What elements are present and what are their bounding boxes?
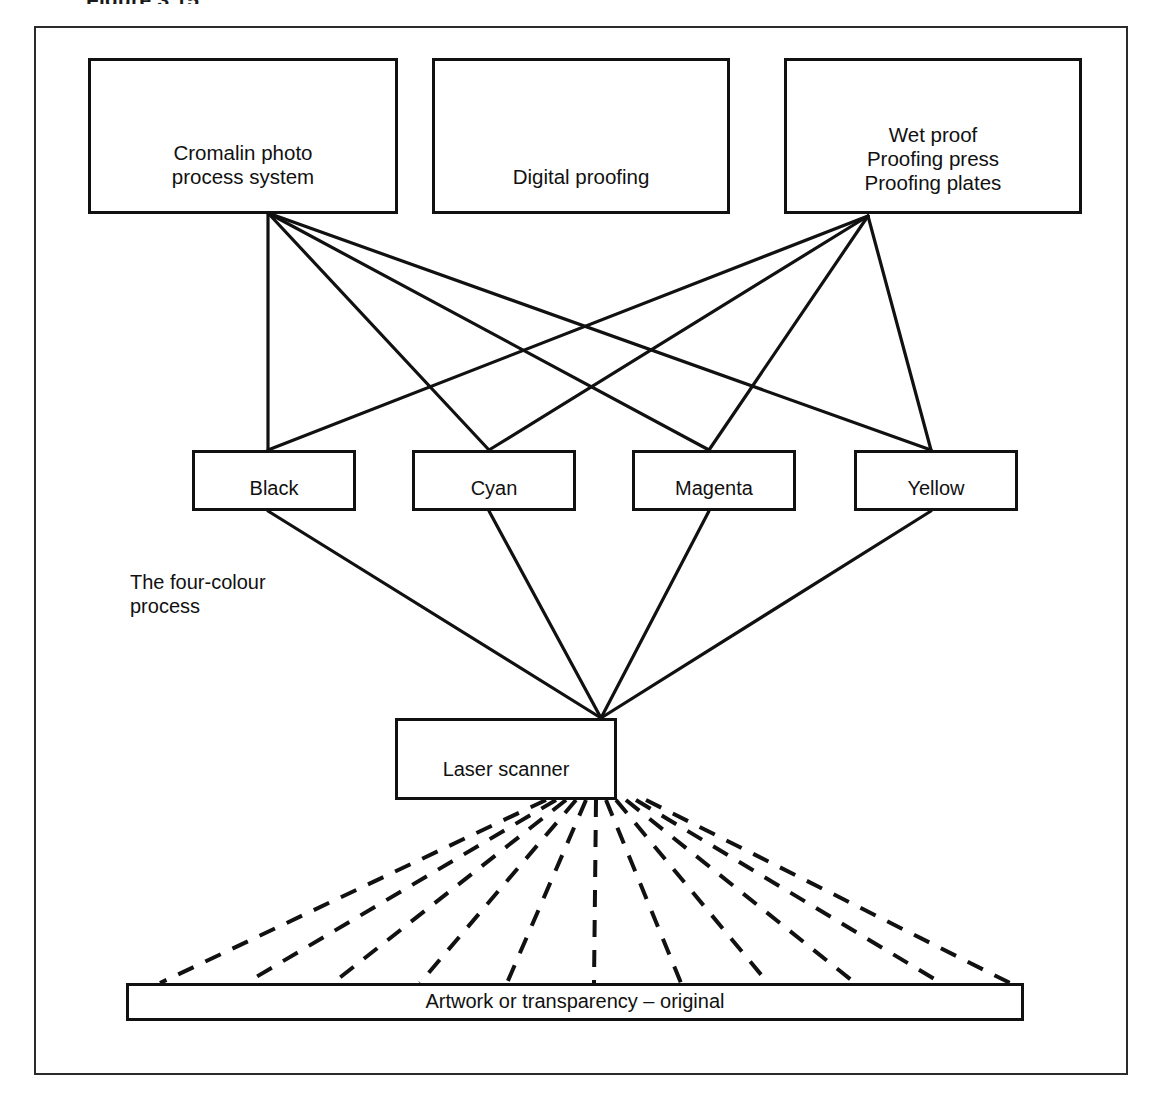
node-black-label: Black	[195, 477, 353, 508]
figure-root: Figure 3.15	[0, 0, 1164, 1107]
node-artwork-original: Artwork or transparency – original	[126, 983, 1024, 1021]
node-cyan-label: Cyan	[415, 477, 573, 508]
node-magenta-label: Magenta	[635, 477, 793, 508]
node-colour-cyan: Cyan	[412, 450, 576, 511]
node-digital-label: Digital proofing	[435, 165, 727, 211]
node-colour-magenta: Magenta	[632, 450, 796, 511]
node-cromalin-photo-process-system: Cromalin photo process system	[88, 58, 398, 214]
node-colour-yellow: Yellow	[854, 450, 1018, 511]
node-digital-proofing: Digital proofing	[432, 58, 730, 214]
node-yellow-label: Yellow	[857, 477, 1015, 508]
annotation-four-colour-process: The four-colour process	[130, 570, 266, 618]
node-wet-proof: Wet proof Proofing press Proofing plates	[784, 58, 1082, 214]
node-laser-scanner: Laser scanner	[395, 718, 617, 800]
node-cromalin-label: Cromalin photo process system	[91, 141, 395, 211]
figure-caption: Figure 3.15	[86, 0, 199, 4]
node-scanner-label: Laser scanner	[398, 758, 614, 797]
node-colour-black: Black	[192, 450, 356, 511]
node-artwork-label: Artwork or transparency – original	[129, 990, 1021, 1013]
node-wetproof-label: Wet proof Proofing press Proofing plates	[787, 123, 1079, 211]
